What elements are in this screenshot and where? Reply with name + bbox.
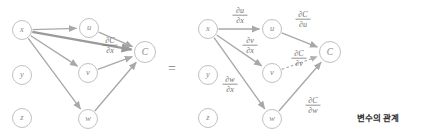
edge-x-to-u bbox=[32, 28, 76, 29]
equals-sign: = bbox=[168, 61, 176, 76]
node-label-u: u bbox=[87, 22, 91, 32]
formula-denominator-dv-dx: ∂x bbox=[246, 46, 254, 55]
node-label-w: w bbox=[269, 113, 275, 123]
formula-numerator-du-dx: ∂u bbox=[236, 6, 244, 15]
formula-denominator-dC-dw: ∂w bbox=[308, 106, 318, 115]
node-z: z bbox=[13, 109, 32, 128]
edge-x-to-w bbox=[28, 38, 80, 109]
diagram-caption: 변수의 관계 bbox=[357, 113, 400, 123]
node-label-z: z bbox=[205, 112, 210, 122]
right-graph: xyzuvwC∂u∂x∂v∂x∂w∂x∂C∂u∂C∂v∂C∂w bbox=[199, 6, 341, 129]
node-v: v bbox=[263, 64, 282, 83]
formula-numerator-dw-dx: ∂w bbox=[225, 75, 235, 84]
node-C: C bbox=[135, 42, 156, 63]
node-y: y bbox=[13, 66, 32, 85]
node-y: y bbox=[199, 66, 218, 85]
formula-denominator-du-dx: ∂x bbox=[236, 16, 244, 25]
formula-denominator-dC-du: ∂u bbox=[299, 20, 307, 29]
node-z: z bbox=[199, 109, 218, 128]
edge-w-to-C bbox=[95, 62, 136, 111]
node-u: u bbox=[263, 20, 282, 39]
node-C: C bbox=[320, 42, 341, 63]
node-label-z: z bbox=[19, 112, 24, 122]
formula-dC-dv: ∂C∂v bbox=[292, 49, 307, 69]
node-label-v: v bbox=[86, 67, 90, 77]
edge-u-to-C bbox=[282, 33, 318, 47]
formula-numerator-dC-du: ∂C bbox=[298, 10, 308, 19]
node-w: w bbox=[79, 110, 98, 129]
node-label-C: C bbox=[142, 47, 149, 57]
edge-v-to-C bbox=[98, 57, 132, 70]
edge-x-to-w bbox=[214, 38, 265, 109]
node-label-y: y bbox=[205, 69, 210, 79]
node-v: v bbox=[79, 64, 98, 83]
node-label-C: C bbox=[327, 47, 334, 57]
formula-dC-dx: ∂C∂x bbox=[103, 36, 118, 56]
node-label-v: v bbox=[270, 67, 274, 77]
formula-du-dx: ∂u∂x bbox=[233, 6, 248, 26]
formula-dw-dx: ∂w∂x bbox=[223, 75, 238, 95]
formula-dv-dx: ∂v∂x bbox=[243, 36, 258, 56]
formula-dC-du: ∂C∂u bbox=[296, 10, 311, 30]
node-x: x bbox=[199, 20, 218, 39]
diagram-canvas: xyzuvwC∂C∂x xyzuvwC∂u∂x∂v∂x∂w∂x∂C∂u∂C∂v∂… bbox=[0, 0, 421, 136]
formula-numerator-dv-dx: ∂v bbox=[246, 36, 254, 45]
left-graph: xyzuvwC∂C∂x bbox=[13, 19, 156, 129]
node-u: u bbox=[80, 19, 99, 38]
node-label-u: u bbox=[270, 23, 274, 33]
variable-relationship-diagram: xyzuvwC∂C∂x xyzuvwC∂u∂x∂v∂x∂w∂x∂C∂u∂C∂v∂… bbox=[0, 0, 421, 136]
node-label-x: x bbox=[19, 24, 24, 34]
formula-numerator-dC-dw: ∂C bbox=[308, 96, 318, 105]
formula-dC-dw: ∂C∂w bbox=[306, 96, 321, 116]
node-w: w bbox=[263, 110, 282, 129]
node-label-x: x bbox=[205, 23, 210, 33]
formula-denominator-dw-dx: ∂x bbox=[226, 85, 234, 94]
formula-numerator-dC-dx: ∂C bbox=[105, 36, 115, 45]
node-label-w: w bbox=[85, 113, 91, 123]
node-x: x bbox=[13, 21, 32, 40]
formula-denominator-dC-dv: ∂v bbox=[295, 59, 303, 68]
formula-denominator-dC-dx: ∂x bbox=[106, 46, 114, 55]
formula-numerator-dC-dv: ∂C bbox=[294, 49, 304, 58]
node-label-y: y bbox=[19, 69, 24, 79]
